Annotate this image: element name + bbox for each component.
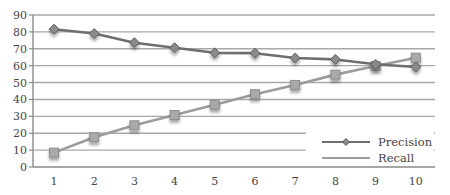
y-tick-label: 0	[20, 161, 27, 174]
precision-point	[129, 38, 139, 48]
recall-point	[50, 148, 59, 157]
recall-point	[130, 121, 139, 130]
recall-point	[170, 110, 179, 119]
precision-point	[411, 62, 421, 72]
x-tick-label: 1	[51, 175, 58, 188]
x-tick-label: 5	[211, 175, 218, 188]
x-tick-label: 2	[91, 175, 98, 188]
y-tick-label: 60	[13, 60, 27, 73]
y-tick-label: 80	[13, 26, 27, 39]
x-tick-label: 6	[252, 175, 259, 188]
y-tick-label: 40	[13, 93, 27, 106]
y-tick-label: 30	[13, 110, 27, 123]
x-tick-label: 4	[171, 175, 178, 188]
legend-precision-label: Precision	[378, 135, 433, 149]
y-tick-label: 50	[13, 77, 27, 90]
precision-point	[250, 48, 260, 58]
precision-point	[49, 24, 59, 34]
x-axis-tick-labels: 12345678910	[51, 175, 423, 188]
legend-recall-label: Recall	[378, 151, 414, 165]
recall-point	[251, 90, 260, 99]
x-tick-label: 9	[372, 175, 379, 188]
legend: Precision Recall	[306, 131, 434, 165]
x-tick-label: 3	[131, 175, 138, 188]
recall-point	[90, 133, 99, 142]
line-chart: 0102030405060708090 12345678910 Precisio…	[0, 0, 450, 195]
x-tick-label: 7	[292, 175, 299, 188]
recall-point	[291, 80, 300, 89]
recall-point	[331, 70, 340, 79]
x-tick-label: 8	[332, 175, 339, 188]
recall-point	[210, 100, 219, 109]
y-tick-label: 90	[13, 9, 27, 22]
recall-point	[411, 53, 420, 62]
precision-point	[330, 54, 340, 64]
precision-point	[170, 43, 180, 53]
y-tick-label: 20	[13, 127, 27, 140]
precision-point	[290, 53, 300, 63]
x-tick-label: 10	[409, 175, 423, 188]
y-tick-label: 10	[13, 144, 27, 157]
precision-point	[89, 29, 99, 39]
y-axis-tick-labels: 0102030405060708090	[13, 9, 27, 174]
y-tick-label: 70	[13, 43, 27, 56]
